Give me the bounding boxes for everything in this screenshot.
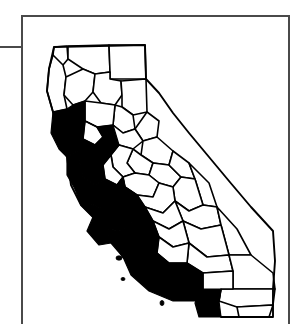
island-santa-rosa xyxy=(125,255,136,261)
island-santa-cruz xyxy=(139,256,148,261)
california-map-svg xyxy=(23,17,288,324)
island-san-clemente xyxy=(160,300,164,305)
island-anacapa xyxy=(121,277,125,280)
california-county-map-figure xyxy=(23,17,288,324)
left-margin-rule xyxy=(0,46,22,48)
island-san-miguel xyxy=(116,256,122,260)
page-root xyxy=(0,0,299,324)
frame-right-border xyxy=(288,15,290,324)
